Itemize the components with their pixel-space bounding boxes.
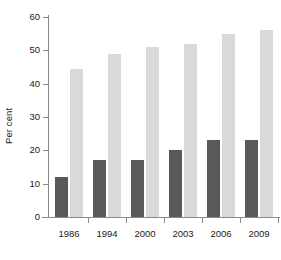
bar-series-1 [169,150,182,217]
bar-group [55,17,83,217]
y-axis-tick-label-text: 40 [14,79,40,89]
x-axis-tick [202,218,203,223]
bar-series-1 [93,160,106,217]
bar-series-1 [131,160,144,217]
x-axis-tick [278,218,279,223]
bar-series-1 [55,177,68,217]
bar-group [169,17,197,217]
y-axis-tick-label: 30 [14,112,40,122]
y-axis-tick-label: 50 [14,45,40,55]
bar-group [207,17,235,217]
y-axis-tick [43,217,49,218]
bar-series-1 [245,140,258,217]
x-axis-tick-label: 2009 [236,228,281,239]
x-axis-tick [164,218,165,223]
y-axis-tick-label: 10 [14,179,40,189]
y-axis-tick-label-text: 10 [14,179,40,189]
bar-series-2 [222,34,235,217]
y-axis-tick-label: 0 [14,212,40,222]
y-axis-tick-label-text: 0 [14,212,40,222]
x-axis-line [42,217,280,218]
y-axis-tick-label: 20 [14,145,40,155]
bar-series-2 [146,47,159,217]
bar-group [245,17,273,217]
bar-series-2 [108,54,121,217]
y-axis-tick-label: 40 [14,79,40,89]
y-axis-tick-label-text: 60 [14,12,40,22]
bar-series-2 [70,69,83,217]
bar-series-2 [184,44,197,217]
bar-chart: Per cent 0102030405060 19861994200020032… [0,0,281,260]
y-axis-tick-label: 60 [14,12,40,22]
bar-series-1 [207,140,220,217]
x-axis-tick [126,218,127,223]
y-axis-tick-label-text: 50 [14,45,40,55]
bar-group [93,17,121,217]
bar-group [131,17,159,217]
x-axis-tick [88,218,89,223]
plot-area [49,17,280,217]
bar-series-2 [260,30,273,217]
x-axis-tick [240,218,241,223]
y-axis-tick-label-text: 30 [14,112,40,122]
y-axis-tick-label-text: 20 [14,145,40,155]
